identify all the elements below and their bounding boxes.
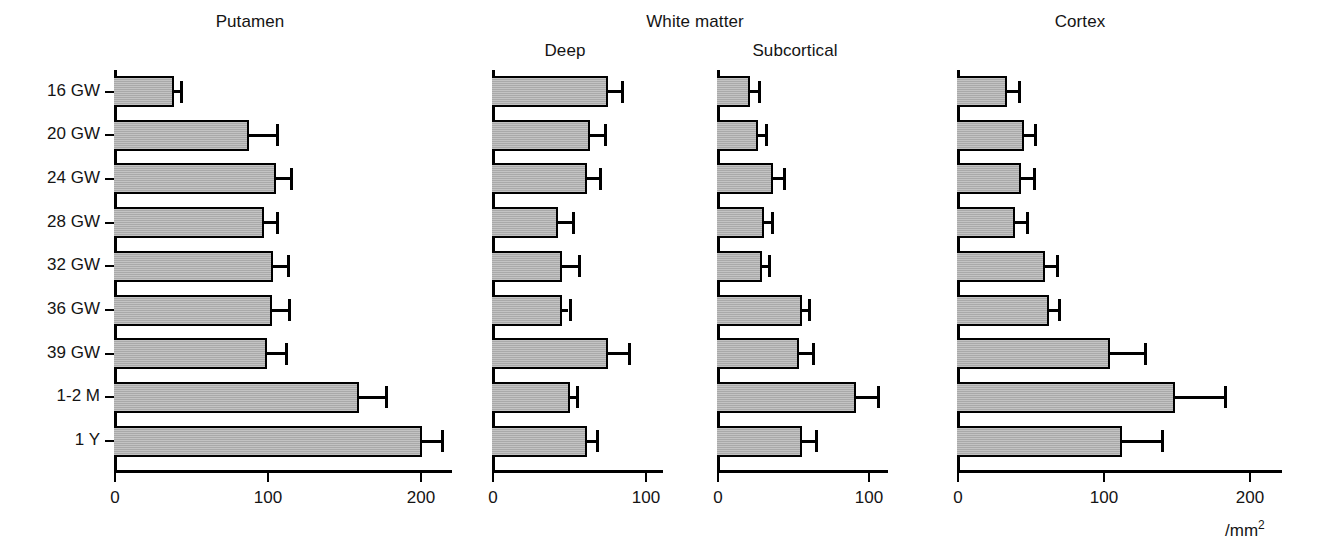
bar	[957, 338, 1110, 369]
x-axis-tick-label: 100	[1090, 488, 1118, 508]
axis-unit-label: /mm2	[1225, 518, 1265, 541]
error-bar-cap	[1033, 168, 1036, 190]
error-bar-line	[1024, 134, 1034, 137]
unit-exponent: 2	[1258, 518, 1265, 532]
bar	[957, 207, 1015, 238]
error-bar-cap	[1058, 299, 1061, 321]
panel-cortex: 0100200	[0, 0, 1325, 554]
bar	[957, 251, 1045, 282]
error-bar-cap	[1018, 81, 1021, 103]
bar	[957, 163, 1021, 194]
error-bar-cap	[1144, 343, 1147, 365]
x-axis-tick	[1103, 473, 1105, 482]
bar	[957, 76, 1007, 107]
error-bar-cap	[1056, 255, 1059, 277]
error-bar-cap	[1026, 212, 1029, 234]
error-bar-line	[1015, 221, 1025, 224]
figure-canvas: PutamenWhite matterCortexDeepSubcortical…	[0, 0, 1325, 554]
error-bar-cap	[1224, 386, 1227, 408]
bar	[957, 120, 1024, 151]
error-bar-line	[1007, 90, 1019, 93]
x-axis-tick	[1249, 473, 1251, 482]
x-axis-tick-label: 200	[1236, 488, 1264, 508]
x-axis-tick	[957, 473, 959, 482]
bar	[957, 426, 1122, 457]
error-bar-line	[1045, 265, 1057, 268]
error-bar-cap	[1161, 430, 1164, 452]
error-bar-line	[1122, 440, 1161, 443]
error-bar-line	[1021, 177, 1033, 180]
unit-base: /mm	[1225, 521, 1258, 540]
bar	[957, 382, 1175, 413]
error-bar-line	[1110, 352, 1144, 355]
error-bar-line	[1175, 396, 1225, 399]
x-axis-spine	[957, 470, 1282, 473]
x-axis-tick-label: 0	[953, 488, 962, 508]
bar	[957, 295, 1049, 326]
error-bar-cap	[1034, 124, 1037, 146]
error-bar-line	[1049, 309, 1058, 312]
